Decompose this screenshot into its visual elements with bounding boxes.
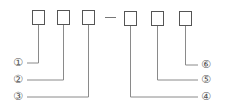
code-structure-diagram: ① ② ③ ④ ⑤ ⑥ [0,0,227,110]
marker-3: ③ [11,91,25,103]
code-box-1 [32,10,45,25]
separator-dash [105,17,116,18]
marker-1: ① [11,57,25,69]
code-box-6 [179,11,192,26]
marker-4: ④ [199,91,213,103]
connector-4 [131,26,199,97]
marker-2: ② [11,74,25,86]
connector-1 [27,25,39,63]
connector-6 [186,26,199,65]
connector-5 [158,26,199,80]
connector-3 [27,25,89,97]
connector-2 [27,25,64,80]
code-box-2 [57,10,70,25]
code-box-5 [151,11,164,26]
marker-6: ⑥ [199,59,213,71]
code-box-4 [124,11,137,26]
code-box-3 [82,10,95,25]
marker-5: ⑤ [199,74,213,86]
